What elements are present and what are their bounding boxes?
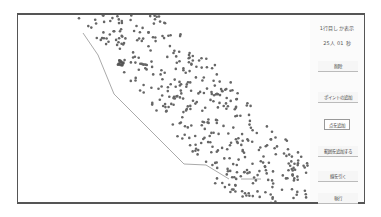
data-point bbox=[227, 132, 230, 135]
data-point bbox=[103, 37, 106, 40]
data-point bbox=[150, 86, 153, 89]
control-panel: 1行目しか表示 25人 01 秒 削除 ポイントの追加 点を追加 範囲を追加する… bbox=[310, 15, 364, 202]
data-point bbox=[90, 26, 93, 29]
cluster-point bbox=[118, 59, 122, 63]
info-label-2: 25人 01 秒 bbox=[310, 39, 364, 46]
data-point bbox=[271, 179, 274, 182]
data-point bbox=[267, 179, 270, 182]
data-point bbox=[201, 121, 204, 124]
data-point bbox=[187, 126, 190, 129]
data-point bbox=[258, 196, 261, 199]
data-point bbox=[152, 36, 155, 39]
data-point bbox=[188, 61, 191, 64]
data-point bbox=[227, 170, 230, 173]
data-point bbox=[185, 109, 188, 112]
data-point bbox=[229, 191, 232, 194]
data-point bbox=[112, 30, 115, 33]
execute-button[interactable]: 執行 bbox=[318, 193, 358, 204]
data-point bbox=[237, 158, 240, 161]
data-point bbox=[192, 100, 195, 103]
data-point bbox=[212, 100, 215, 103]
data-point bbox=[178, 51, 181, 54]
data-point bbox=[232, 163, 235, 166]
data-point bbox=[154, 36, 157, 39]
data-point bbox=[175, 68, 178, 71]
data-point bbox=[256, 132, 259, 135]
data-point bbox=[293, 177, 296, 180]
data-point bbox=[208, 135, 211, 138]
data-point bbox=[224, 186, 227, 189]
data-point bbox=[221, 182, 224, 185]
data-point bbox=[119, 30, 122, 33]
data-point bbox=[159, 73, 162, 76]
scatter-plot[interactable] bbox=[18, 15, 310, 202]
data-point bbox=[188, 52, 191, 55]
data-point bbox=[169, 45, 172, 48]
scatter-canvas[interactable] bbox=[18, 15, 310, 202]
data-point bbox=[204, 106, 207, 109]
data-point bbox=[211, 145, 214, 148]
data-point bbox=[180, 92, 183, 95]
data-point bbox=[270, 138, 273, 141]
data-point bbox=[274, 200, 277, 202]
data-point bbox=[265, 172, 268, 175]
data-point bbox=[285, 155, 288, 158]
data-point bbox=[243, 151, 246, 154]
data-point bbox=[94, 18, 97, 21]
data-point bbox=[179, 96, 182, 99]
data-point bbox=[179, 84, 182, 87]
data-point bbox=[160, 69, 163, 72]
data-point bbox=[181, 137, 184, 140]
data-point bbox=[253, 176, 256, 179]
data-point bbox=[166, 56, 169, 59]
data-point bbox=[232, 188, 235, 191]
data-point bbox=[273, 147, 276, 150]
data-point bbox=[249, 120, 252, 123]
data-point bbox=[163, 37, 166, 40]
data-point bbox=[205, 57, 208, 60]
info-label-1: 1行目しか表示 bbox=[310, 24, 364, 31]
data-point bbox=[149, 15, 152, 17]
data-point bbox=[235, 138, 238, 141]
data-point bbox=[214, 64, 217, 67]
data-point bbox=[178, 81, 181, 84]
data-point bbox=[107, 40, 110, 43]
add-point-button[interactable]: 点を追加 bbox=[324, 119, 350, 130]
data-point bbox=[244, 192, 247, 195]
data-point bbox=[161, 78, 164, 81]
add-points-button[interactable]: ポイントの追加 bbox=[318, 92, 358, 103]
data-point bbox=[266, 125, 269, 128]
data-point bbox=[132, 51, 135, 54]
data-point bbox=[139, 62, 142, 65]
data-point bbox=[234, 108, 237, 111]
data-point bbox=[232, 126, 235, 129]
data-point bbox=[160, 85, 163, 88]
data-point bbox=[290, 160, 293, 163]
data-point bbox=[281, 188, 284, 191]
data-point bbox=[214, 84, 217, 87]
data-point bbox=[158, 15, 161, 18]
data-point bbox=[134, 56, 137, 59]
data-point bbox=[288, 153, 291, 156]
data-point bbox=[183, 133, 186, 136]
data-point bbox=[296, 175, 299, 178]
data-point bbox=[283, 152, 286, 155]
data-point bbox=[271, 196, 274, 199]
data-point bbox=[189, 105, 192, 108]
data-point bbox=[217, 133, 220, 136]
data-point bbox=[189, 144, 192, 147]
data-point bbox=[149, 49, 152, 52]
data-point bbox=[176, 61, 179, 64]
data-point bbox=[174, 86, 177, 89]
draw-line-button[interactable]: 線を引く bbox=[318, 171, 358, 182]
data-point bbox=[118, 37, 121, 40]
data-point bbox=[216, 177, 219, 180]
data-point bbox=[241, 195, 244, 198]
data-point bbox=[225, 97, 228, 100]
delete-button[interactable]: 削除 bbox=[318, 61, 358, 72]
add-range-button[interactable]: 範囲を追加する bbox=[318, 146, 358, 157]
data-point bbox=[231, 89, 234, 92]
data-point bbox=[251, 129, 254, 132]
data-point bbox=[218, 80, 221, 83]
data-point bbox=[236, 171, 239, 174]
